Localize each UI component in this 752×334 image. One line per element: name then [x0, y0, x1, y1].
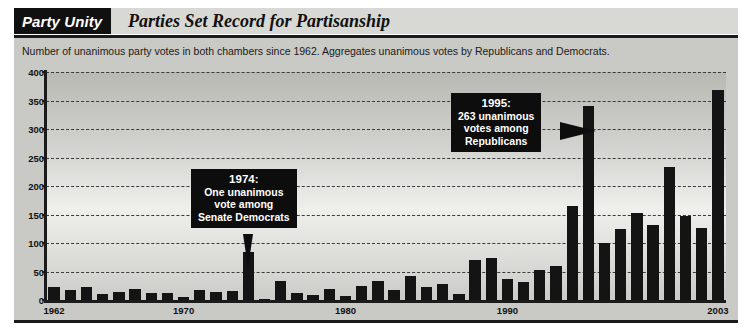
chart-subtitle: Number of unanimous party votes in both … — [22, 45, 734, 57]
y-tick-label-100: 100 — [14, 238, 44, 249]
bar-1973 — [227, 291, 238, 300]
bar-1993 — [550, 266, 561, 300]
bar-1990 — [502, 279, 513, 300]
callout-1974-line-1: 1974: — [198, 173, 290, 186]
y-axis-labels: 050100150200250300350400 — [8, 0, 44, 334]
bar-1964 — [81, 287, 92, 300]
bar-1999 — [647, 225, 658, 300]
y-tick-label-250: 250 — [14, 152, 44, 163]
bar-1985 — [421, 287, 432, 300]
y-tick-mark-400 — [42, 71, 46, 73]
x-axis-line — [44, 300, 726, 303]
bar-1979 — [324, 289, 335, 300]
bar-1996 — [599, 243, 610, 300]
bar-1966 — [113, 292, 124, 300]
x-tick-label-1962: 1962 — [44, 305, 65, 316]
bar-1997 — [615, 229, 626, 300]
bar-2003 — [712, 90, 723, 300]
gridline-300 — [46, 129, 726, 130]
bar-1986 — [437, 284, 448, 300]
y-tick-label-200: 200 — [14, 181, 44, 192]
callout-1995: 1995:263 unanimousvotes amongRepublicans — [451, 93, 541, 152]
bar-1988 — [469, 260, 480, 300]
y-tick-label-150: 150 — [14, 209, 44, 220]
gridline-150 — [46, 215, 726, 216]
y-tick-label-300: 300 — [14, 124, 44, 135]
bar-1962 — [48, 287, 59, 300]
callout-1995-line-1: 1995: — [458, 97, 534, 110]
x-tick-label-1970: 1970 — [173, 305, 194, 316]
bar-2001 — [680, 216, 691, 300]
gridline-250 — [46, 158, 726, 159]
bar-1976 — [275, 281, 286, 300]
y-tick-mark-100 — [42, 242, 46, 244]
x-tick-label-1990: 1990 — [497, 305, 518, 316]
bar-1982 — [372, 281, 383, 300]
bar-1963 — [65, 290, 76, 300]
bar-1972 — [210, 292, 221, 300]
gridline-200 — [46, 186, 726, 187]
callout-1974-line-4: Senate Democrats — [198, 211, 290, 224]
y-tick-mark-350 — [42, 100, 46, 102]
y-tick-mark-50 — [42, 271, 46, 273]
bar-1967 — [129, 289, 140, 300]
callout-1974-pointer — [243, 234, 253, 268]
y-tick-mark-0 — [42, 299, 46, 301]
bar-1992 — [534, 270, 545, 300]
y-tick-mark-200 — [42, 185, 46, 187]
y-tick-mark-150 — [42, 214, 46, 216]
callout-1995-line-3: votes among — [458, 122, 534, 135]
bar-1968 — [146, 293, 157, 300]
callout-1995-line-2: 263 unanimous — [458, 110, 534, 123]
y-tick-label-0: 0 — [14, 295, 44, 306]
x-tick-label-1980: 1980 — [335, 305, 356, 316]
gridline-400 — [46, 72, 726, 73]
y-tick-label-400: 400 — [14, 67, 44, 78]
chart-page: Party Unity Parties Set Record for Parti… — [0, 0, 752, 334]
plot-area — [46, 72, 726, 300]
callout-1974: 1974:One unanimousvote amongSenate Democ… — [191, 169, 297, 228]
bar-1991 — [518, 282, 529, 300]
bar-1983 — [388, 290, 399, 300]
y-tick-mark-250 — [42, 157, 46, 159]
bar-2002 — [696, 228, 707, 300]
y-tick-label-350: 350 — [14, 95, 44, 106]
callout-1995-pointer — [560, 122, 596, 140]
bar-2000 — [664, 167, 675, 300]
callout-1974-line-2: One unanimous — [198, 186, 290, 199]
bar-1977 — [291, 293, 302, 300]
bar-1984 — [405, 276, 416, 300]
bar-1998 — [631, 213, 642, 300]
bar-1971 — [194, 290, 205, 300]
y-tick-mark-300 — [42, 128, 46, 130]
bar-1989 — [486, 258, 497, 300]
gridline-350 — [46, 101, 726, 102]
headline: Parties Set Record for Partisanship — [128, 8, 390, 34]
plot-background-upper — [46, 72, 726, 209]
x-tick-label-2003: 2003 — [707, 305, 728, 316]
bar-1994 — [567, 206, 578, 300]
bar-1981 — [356, 286, 367, 300]
callout-1995-line-4: Republicans — [458, 135, 534, 148]
bar-1969 — [162, 293, 173, 300]
callout-1974-line-3: vote among — [198, 198, 290, 211]
y-tick-label-50: 50 — [14, 266, 44, 277]
